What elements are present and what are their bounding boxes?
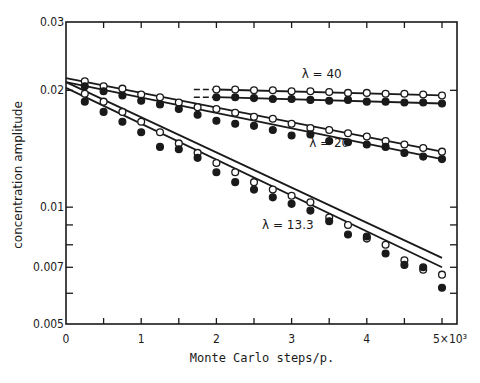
filled-circle-marker [401,261,408,268]
filled-circle-marker [382,143,389,150]
series-label: λ = 20 [309,136,349,150]
filled-circle-marker [138,97,145,104]
filled-circle-marker [232,94,239,101]
x-tick-label: 2 [213,332,220,346]
open-circle-marker [326,89,333,96]
open-circle-marker [345,89,352,96]
filled-circle-marker [307,207,314,214]
filled-circle-marker [232,120,239,127]
open-circle-marker [194,104,201,111]
filled-circle-marker [269,194,276,201]
filled-circle-marker [439,156,446,163]
open-circle-marker [119,108,126,115]
filled-circle-marker [251,122,258,129]
x-tick-label: 0 [63,332,70,346]
filled-circle-marker [138,129,145,136]
open-circle-marker [382,90,389,97]
filled-circle-marker [363,141,370,148]
y-tick-label: 0.02 [40,83,64,97]
open-circle-marker [269,87,276,94]
open-circle-marker [100,98,107,105]
open-circle-marker [439,271,446,278]
open-circle-marker [363,133,370,140]
filled-circle-marker [213,94,220,101]
fit-lines [66,78,442,267]
x-tick-label: 3 [288,332,295,346]
filled-circle-marker [100,88,107,95]
data-points [81,78,445,291]
open-circle-marker [288,88,295,95]
open-circle-marker [213,106,220,113]
filled-circle-marker [326,97,333,104]
filled-circle-marker [439,284,446,291]
filled-circle-marker [345,96,352,103]
axis-labels: 012345×10³0.030.020.010.0070.005 [33,15,467,346]
open-circle-marker [251,87,258,94]
open-circle-marker [345,222,352,229]
y-axis-label: concentration amplitude [11,101,25,249]
filled-circle-marker [251,186,258,193]
y-tick-label: 0.005 [33,317,64,331]
filled-circle-marker [81,83,88,90]
open-circle-marker [439,148,446,155]
filled-circle-marker [194,154,201,161]
filled-circle-marker [363,233,370,240]
filled-circle-marker [251,95,258,102]
open-circle-marker [232,86,239,93]
filled-circle-marker [213,169,220,176]
open-circle-marker [401,141,408,148]
open-circle-marker [251,179,258,186]
y-tick-label: 0.01 [40,200,64,214]
filled-circle-marker [119,92,126,99]
filled-circle-marker [420,99,427,106]
filled-circle-marker [157,143,164,150]
open-circle-marker [439,92,446,99]
open-circle-marker [119,85,126,92]
x-axis-label: Monte Carlo steps/p. [190,351,335,365]
open-circle-marker [420,91,427,98]
open-circle-marker [157,94,164,101]
filled-circle-marker [269,96,276,103]
filled-circle-marker [363,98,370,105]
open-circle-marker [232,109,239,116]
y-tick-label: 0.007 [33,260,64,274]
open-circle-marker [307,125,314,132]
open-circle-marker [382,241,389,248]
open-circle-marker [420,145,427,152]
chart: 012345×10³0.030.020.010.0070.005 Monte C… [0,0,480,383]
filled-circle-marker [401,149,408,156]
open-circle-marker [269,115,276,122]
open-circle-marker [307,88,314,95]
open-circle-marker [401,90,408,97]
open-circle-marker [363,89,370,96]
filled-circle-marker [157,101,164,108]
open-circle-marker [288,120,295,127]
x-tick-label: 1 [138,332,145,346]
filled-circle-marker [345,231,352,238]
filled-circle-marker [269,127,276,134]
filled-circle-marker [288,96,295,103]
filled-circle-marker [175,146,182,153]
open-circle-marker [81,90,88,97]
filled-circle-marker [401,99,408,106]
filled-circle-marker [232,179,239,186]
filled-circle-marker [119,118,126,125]
filled-circle-marker [288,200,295,207]
filled-circle-marker [439,100,446,107]
filled-circle-marker [307,96,314,103]
open-circle-marker [288,192,295,199]
filled-circle-marker [420,153,427,160]
open-circle-marker [157,129,164,136]
open-circle-marker [326,127,333,134]
open-circle-marker [269,186,276,193]
filled-circle-marker [420,264,427,271]
open-circle-marker [307,199,314,206]
open-circle-marker [232,169,239,176]
filled-circle-marker [175,106,182,113]
y-tick-label: 0.03 [40,15,64,29]
open-circle-marker [138,118,145,125]
filled-circle-marker [382,98,389,105]
series-label: λ = 13.3 [262,218,314,232]
filled-circle-marker [81,98,88,105]
series-label: λ = 40 [302,67,342,81]
